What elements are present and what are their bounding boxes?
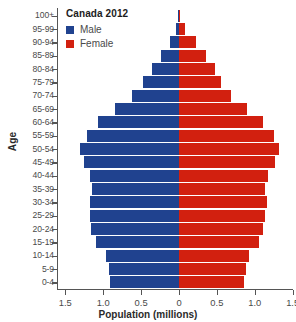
y-axis-tick-label: 65-69	[0, 105, 54, 114]
legend-title: Canada 2012	[66, 8, 176, 19]
bar-male-100+	[178, 10, 179, 22]
bar-male-45-49	[84, 156, 179, 168]
bar-male-35-39	[92, 183, 179, 195]
legend-label-male: Male	[80, 24, 102, 35]
y-axis-tick	[52, 122, 57, 123]
y-axis-tick	[52, 69, 57, 70]
bar-female-100+	[179, 10, 180, 22]
y-axis-tick	[52, 282, 57, 283]
y-axis-tick	[52, 56, 57, 57]
bar-female-70-74	[179, 90, 231, 102]
bar-male-20-24	[91, 223, 179, 235]
bar-female-30-34	[179, 196, 267, 208]
y-axis-line	[57, 8, 58, 290]
bar-male-65-69	[115, 103, 179, 115]
bar-male-60-64	[98, 116, 179, 128]
y-axis-tick	[52, 189, 57, 190]
x-axis-tick	[293, 290, 294, 295]
legend-swatch-female-icon	[66, 40, 74, 48]
bar-female-90-94	[179, 36, 196, 48]
x-axis-tick	[179, 290, 180, 295]
y-axis-tick	[52, 162, 57, 163]
y-axis-tick	[52, 256, 57, 257]
legend-item-female: Female	[66, 38, 176, 49]
y-axis-tick-label: 45-49	[0, 158, 54, 167]
bar-male-80-84	[152, 63, 179, 75]
bar-female-60-64	[179, 116, 263, 128]
x-axis-tick-label: 1.5	[273, 297, 296, 308]
bar-female-20-24	[179, 223, 263, 235]
bar-female-5-9	[179, 263, 246, 275]
y-axis-tick	[52, 16, 57, 17]
bar-female-10-14	[179, 250, 249, 262]
y-axis-tick	[52, 42, 57, 43]
y-axis-tick	[52, 29, 57, 30]
legend-item-male: Male	[66, 24, 176, 35]
bar-female-85-89	[179, 50, 206, 62]
y-axis-tick-label: 15-19	[0, 238, 54, 247]
y-axis-tick-label: 10-14	[0, 251, 54, 260]
bar-female-95-99	[179, 23, 185, 35]
bar-male-55-59	[87, 130, 179, 142]
y-axis-tick	[52, 269, 57, 270]
legend: Canada 2012 Male Female	[66, 8, 176, 49]
y-axis-tick-label: 0-4	[0, 278, 54, 287]
y-axis-tick	[52, 216, 57, 217]
y-axis-tick-label: 35-39	[0, 185, 54, 194]
bar-male-95-99	[176, 23, 179, 35]
bar-female-50-54	[179, 143, 279, 155]
x-axis-tick-label: 0.5	[197, 297, 237, 308]
x-axis-tick	[217, 290, 218, 295]
y-axis-tick	[52, 96, 57, 97]
bar-male-15-19	[96, 236, 179, 248]
bar-male-0-4	[110, 276, 179, 288]
y-axis-tick	[52, 149, 57, 150]
bar-male-25-29	[90, 210, 179, 222]
y-axis-tick	[52, 109, 57, 110]
x-axis-tick-label: 1.0	[235, 297, 275, 308]
bar-female-25-29	[179, 210, 265, 222]
x-axis-tick	[65, 290, 66, 295]
bar-male-10-14	[106, 250, 179, 262]
y-axis-tick-label: 25-29	[0, 211, 54, 220]
bar-female-75-79	[179, 76, 221, 88]
y-axis-tick-label: 95-99	[0, 25, 54, 34]
bar-male-30-34	[90, 196, 179, 208]
x-axis-tick-label: 0.5	[121, 297, 161, 308]
bar-male-70-74	[132, 90, 179, 102]
y-axis-tick-label: 85-89	[0, 51, 54, 60]
y-axis-tick-label: 60-64	[0, 118, 54, 127]
y-axis-tick-label: 70-74	[0, 91, 54, 100]
population-pyramid-chart: Age 0-45-910-1415-1920-2425-2930-3435-39…	[0, 0, 296, 322]
y-axis-tick	[52, 136, 57, 137]
bar-female-35-39	[179, 183, 265, 195]
bar-female-55-59	[179, 130, 274, 142]
x-axis-title: Population (millions)	[0, 309, 296, 320]
bar-female-15-19	[179, 236, 259, 248]
y-axis-tick	[52, 202, 57, 203]
y-axis-tick-label: 5-9	[0, 265, 54, 274]
x-axis-tick	[103, 290, 104, 295]
bar-male-40-44	[90, 170, 179, 182]
y-axis-tick-label: 30-34	[0, 198, 54, 207]
y-axis-tick-label: 80-84	[0, 65, 54, 74]
legend-label-female: Female	[80, 38, 113, 49]
bar-male-5-9	[109, 263, 179, 275]
x-axis-line	[57, 289, 293, 290]
x-axis-tick	[141, 290, 142, 295]
bar-male-85-89	[161, 50, 179, 62]
bar-female-0-4	[179, 276, 244, 288]
bar-female-45-49	[179, 156, 275, 168]
y-axis-tick-label: 75-79	[0, 78, 54, 87]
legend-swatch-male-icon	[66, 26, 74, 34]
x-axis-tick-label: 0	[159, 297, 199, 308]
y-axis-tick-label: 100+	[0, 11, 54, 20]
bar-female-80-84	[179, 63, 215, 75]
y-axis-tick-label: 90-94	[0, 38, 54, 47]
y-axis-tick-label: 40-44	[0, 171, 54, 180]
y-axis-tick	[52, 176, 57, 177]
y-axis-tick	[52, 242, 57, 243]
bar-female-40-44	[179, 170, 268, 182]
bar-female-65-69	[179, 103, 247, 115]
y-axis-tick-label: 50-54	[0, 145, 54, 154]
